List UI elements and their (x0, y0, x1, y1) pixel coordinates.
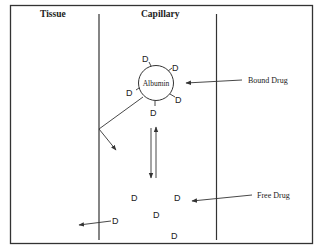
free-drug: D (153, 210, 160, 220)
tissue-header: Tissue (40, 9, 66, 19)
bound-drug: D (172, 63, 179, 73)
bound-drug: D (175, 95, 182, 105)
albumin-complex: Albumin D D D D D (126, 54, 182, 118)
free-drug: D (112, 216, 119, 226)
free-drug-group: D D D D D (112, 193, 181, 241)
free-drug: D (171, 231, 178, 241)
free-drug-arrow (192, 195, 252, 201)
capillary-header: Capillary (141, 9, 180, 19)
bound-drug: D (142, 54, 149, 64)
albumin-label: Albumin (143, 79, 170, 88)
diagram-frame (11, 6, 313, 244)
drug-binding-diagram: Tissue Capillary Albumin D D D D D Bound… (0, 0, 318, 250)
free-drug-label: Free Drug (257, 191, 290, 200)
free-drug: D (131, 193, 138, 203)
bound-drug-arrow (186, 80, 242, 83)
bound-drug: D (126, 88, 133, 98)
albumin-to-tissue-arrow (99, 97, 143, 150)
free-drug: D (174, 193, 181, 203)
bound-drug: D (150, 108, 157, 118)
free-drug-to-tissue-arrow (79, 221, 111, 225)
bound-drug-label: Bound Drug (248, 76, 288, 85)
